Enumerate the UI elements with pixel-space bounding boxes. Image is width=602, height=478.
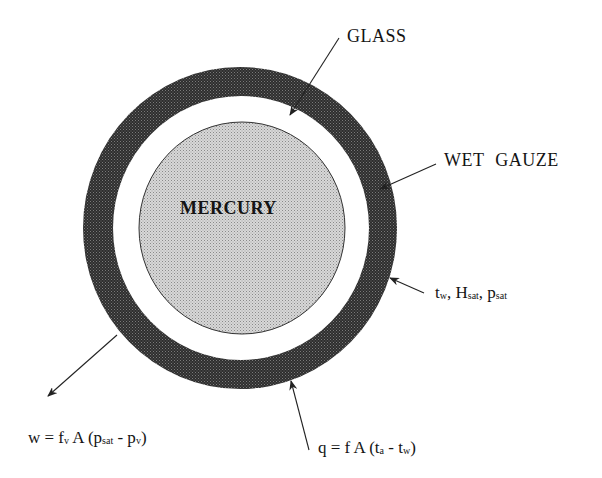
surface-state-label: tw, Hsat, psat <box>435 283 507 303</box>
surface-state-arrow <box>390 278 424 293</box>
mass-flux-arrow <box>48 335 117 396</box>
heat-flux-arrow <box>291 381 309 450</box>
eq-part: ) <box>141 428 147 447</box>
mercury-core <box>139 122 345 334</box>
temp-subscript: w <box>440 290 447 301</box>
humidity-subscript: sat <box>468 290 479 301</box>
eq-part: A (p <box>69 428 102 447</box>
eq-part: w = f <box>28 428 64 447</box>
mass-flux-equation: w = fv A (psat - pv) <box>28 428 147 448</box>
pressure-subscript: sat <box>496 290 507 301</box>
eq-subscript: sat <box>102 435 113 446</box>
eq-part: - p <box>113 428 136 447</box>
wet-gauze-label: WET GAUZE <box>444 150 559 171</box>
eq-part: ) <box>410 438 416 457</box>
mercury-label: MERCURY <box>180 198 277 219</box>
heat-flux-equation: q = f A (ta - tw) <box>318 438 416 458</box>
pressure-symbol: p <box>487 283 496 302</box>
thermometer-diagram <box>0 0 602 478</box>
eq-part: - t <box>384 438 403 457</box>
humidity-symbol: H <box>455 283 467 302</box>
eq-part: q = f A (t <box>318 438 380 457</box>
glass-label: GLASS <box>347 26 407 47</box>
